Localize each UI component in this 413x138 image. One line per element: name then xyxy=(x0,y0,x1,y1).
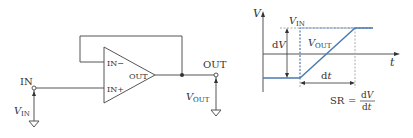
sr-num-v: V xyxy=(367,90,375,100)
vout-ramp-signal xyxy=(263,28,373,78)
graph-vin-label-sub: IN xyxy=(296,20,305,28)
vout-label-sub: OUT xyxy=(193,96,210,104)
output-terminal xyxy=(214,73,218,77)
ground-icon xyxy=(29,121,39,127)
arrow-right-icon xyxy=(350,81,355,85)
graph-vout-label-sub: OUT xyxy=(315,42,332,50)
sr-equals: = xyxy=(348,95,356,106)
arrow-up-icon xyxy=(214,78,218,83)
voltage-follower-circuit xyxy=(29,36,221,127)
sr-den-t: t xyxy=(368,102,372,112)
sr-lhs: SR xyxy=(330,95,345,106)
y-axis-arrow-icon xyxy=(261,11,265,17)
dt-label: dt xyxy=(321,70,332,81)
slew-rate-diagram: IN− IN+ OUT IN OUT V IN V OUT V t V IN xyxy=(0,0,413,138)
vin-step-signal xyxy=(300,28,373,78)
arrow-up-icon xyxy=(32,91,36,96)
x-axis-label: t xyxy=(390,56,395,69)
dt-label-t: t xyxy=(327,70,332,81)
arrow-left-icon xyxy=(300,81,305,85)
ground-icon xyxy=(211,110,221,116)
sr-denominator: dt xyxy=(362,102,372,112)
junction-dot xyxy=(180,73,184,77)
opamp-out-label: OUT xyxy=(129,72,148,81)
input-terminal-label: IN xyxy=(20,76,33,87)
opamp-in-plus-label: IN+ xyxy=(107,85,124,94)
y-axis-label: V xyxy=(253,7,262,20)
vin-label-sub: IN xyxy=(21,110,30,118)
sr-numerator: dV xyxy=(361,90,375,100)
dv-label-v: V xyxy=(278,39,287,50)
dv-label: dV xyxy=(272,39,287,50)
x-axis-arrow-icon xyxy=(394,52,400,56)
slew-rate-formula: SR = dV dt xyxy=(330,90,375,112)
output-terminal-label: OUT xyxy=(203,59,227,70)
arrow-up-icon xyxy=(285,28,289,33)
arrow-down-icon xyxy=(285,73,289,78)
opamp-in-minus-label: IN− xyxy=(107,59,124,68)
